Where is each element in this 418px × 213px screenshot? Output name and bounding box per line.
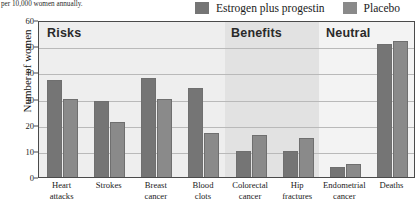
bar [393,41,408,177]
bar [157,99,172,178]
bar-group [228,22,275,177]
bar [330,167,345,177]
bar [141,78,156,177]
bar [204,133,219,177]
y-axis-tick-label: 20 [26,121,35,131]
y-axis-tick-label: 30 [26,95,35,105]
bar-group [275,22,322,177]
legend-swatch-icon [195,2,209,14]
x-axis-labels: HeartattacksStrokesBreastcancerBloodclot… [38,180,415,213]
bar [377,44,392,177]
bar [94,101,109,177]
bar [47,80,62,177]
legend-label-placebo: Placebo [364,2,400,14]
x-axis-label-line: Deaths [361,180,418,191]
bar [110,122,125,177]
y-axis: Number of women 0102030405060 [14,21,38,178]
y-axis-tick-label: 50 [26,42,35,52]
bar [299,138,314,177]
y-axis-tick-label: 60 [26,16,35,26]
legend-item-placebo: Placebo [343,2,400,14]
bar-group [133,22,180,177]
chart-legend: Estrogen plus progestin Placebo [195,0,418,16]
bar [63,99,78,178]
bar-group [39,22,86,177]
bar-group [322,22,369,177]
bar-group [86,22,133,177]
bar [283,151,298,177]
x-axis-label-line: cancer [314,191,375,202]
legend-swatch-icon [343,2,357,14]
bars-layer [39,22,414,177]
bar-group [180,22,227,177]
y-axis-tick-label: 40 [26,68,35,78]
x-axis-label: Deaths [361,180,418,191]
bar [252,135,267,177]
bar-group [369,22,415,177]
chart-caption: per 10,000 women annually. [0,0,190,14]
bar [346,164,361,177]
plot-area: Risks Benefits Neutral [38,21,415,178]
legend-item-estrogen-plus-progestin: Estrogen plus progestin [195,2,325,14]
y-axis-tick-label: 10 [26,147,35,157]
legend-label-estrogen-plus-progestin: Estrogen plus progestin [216,2,325,14]
bar [188,88,203,177]
bar [236,151,251,177]
x-axis-label-line: attacks [31,191,92,202]
